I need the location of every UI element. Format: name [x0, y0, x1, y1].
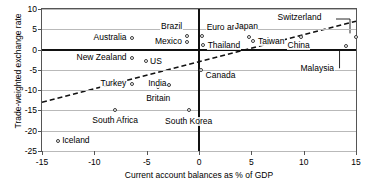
data-point-label: India [148, 79, 167, 88]
data-point-marker [199, 68, 203, 72]
x-axis-tick-label: 5 [249, 157, 254, 167]
data-point-marker [247, 35, 251, 39]
data-point-marker [130, 56, 134, 60]
x-axis-tick-mark [94, 151, 95, 155]
x-axis-tick-label: 15 [351, 157, 360, 167]
y-axis-tick-mark [38, 131, 42, 132]
data-point-label: Iceland [62, 136, 90, 145]
x-axis-tick-mark [147, 151, 148, 155]
data-point-label: Taiwan [257, 37, 284, 46]
y-axis-tick-label: 0 [3, 45, 37, 55]
y-axis-tick-label: 5 [3, 24, 37, 34]
scatter-chart: Trade-weighted exchange rate Current acc… [0, 0, 365, 184]
data-point-marker [167, 83, 171, 87]
data-point-label: Turkey [100, 79, 127, 88]
data-point-label: US [150, 57, 163, 66]
y-axis-tick-label: 10 [3, 4, 37, 14]
x-axis-tick-mark [42, 151, 43, 155]
zero-vertical-axis [198, 9, 200, 151]
data-point-label: Canada [205, 71, 236, 80]
y-axis-tick-label: -10 [3, 85, 37, 95]
data-point-label: New Zealand [76, 53, 127, 62]
data-point-marker [354, 35, 358, 39]
data-point-label: Australia [93, 33, 127, 42]
y-axis-tick-label: -20 [3, 126, 37, 136]
data-point-label: China [287, 41, 310, 50]
data-point-label: Brazil [160, 22, 182, 31]
y-axis-tick-mark [38, 110, 42, 111]
data-point-marker [201, 43, 205, 47]
plot-area: 1050-5-10-15-20-25-15-10-5051015BrazilMe… [41, 8, 357, 152]
data-point-label: Switzerland [277, 13, 322, 22]
data-point-label: South Korea [165, 117, 213, 126]
data-point-marker [299, 35, 303, 39]
y-axis-tick-mark [38, 90, 42, 91]
x-axis-tick-label: -5 [143, 157, 151, 167]
data-point-marker [185, 34, 189, 38]
x-axis-tick-mark [199, 151, 200, 155]
x-axis-tick-label: -15 [36, 157, 48, 167]
data-point-marker [130, 82, 134, 86]
data-point-label: South Africa [92, 116, 139, 125]
data-point-marker [251, 39, 255, 43]
data-point-marker [56, 139, 60, 143]
data-point-label: Malaysia [300, 64, 335, 73]
data-point-marker [344, 44, 348, 48]
x-axis-tick-label: 10 [299, 157, 308, 167]
y-axis-tick-mark [38, 29, 42, 30]
data-point-label: Japan [234, 22, 258, 31]
x-axis-tick-label: -10 [88, 157, 100, 167]
x-axis-tick-mark [251, 151, 252, 155]
data-point-marker [185, 40, 189, 44]
data-point-label: Mexico [154, 37, 182, 46]
data-point-marker [187, 108, 191, 112]
y-axis-tick-label: -5 [3, 65, 37, 75]
data-point-marker [144, 59, 148, 63]
y-axis-tick-mark [38, 70, 42, 71]
data-point-label: Britain [146, 94, 171, 103]
x-axis-tick-mark [356, 151, 357, 155]
data-point-marker [113, 108, 117, 112]
y-axis-tick-label: -15 [3, 105, 37, 115]
y-axis-tick-mark [38, 9, 42, 10]
y-axis-tick-label: -25 [3, 146, 37, 156]
data-point-marker [200, 34, 204, 38]
x-axis-tick-mark [304, 151, 305, 155]
data-point-label: Thailand [207, 41, 241, 50]
x-axis-title: Current account balances as % of GDP [41, 170, 357, 180]
x-axis-tick-label: 0 [197, 157, 202, 167]
data-point-marker [130, 36, 134, 40]
